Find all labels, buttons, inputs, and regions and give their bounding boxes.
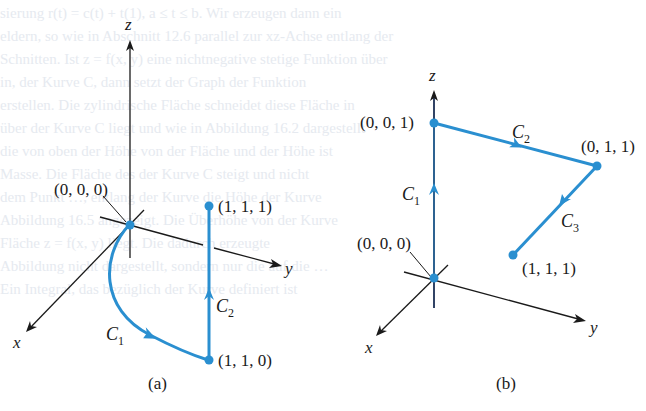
- point-1-1-1-label: (1, 1, 1): [522, 259, 576, 278]
- panel-b-caption: (b): [496, 374, 516, 393]
- point-1-1-1: [205, 202, 214, 211]
- origin-label: (0, 0, 0): [357, 234, 411, 253]
- x-axis-label: x: [12, 333, 21, 352]
- point-1-1-0: [205, 356, 214, 365]
- c1-label: C1: [106, 324, 124, 348]
- z-axis-label: z: [428, 66, 436, 85]
- c1-label: C1: [402, 184, 420, 208]
- y-axis: [100, 217, 203, 245]
- curve-c1: [110, 224, 208, 360]
- panel-a-caption: (a): [148, 374, 167, 393]
- curve-c3: [513, 166, 597, 255]
- panel-b: z y x (0, 0, 0) C1 C2 C3 (0, 0, 1) (0, 1…: [357, 66, 635, 393]
- origin-label: (0, 0, 0): [54, 180, 108, 199]
- point-0-0-1-label: (0, 0, 1): [360, 113, 414, 132]
- origin-leader-line: [410, 252, 431, 277]
- c3-label: C3: [561, 211, 579, 235]
- c2-label: C2: [216, 296, 234, 320]
- panel-a: z y x (0, 0, 0) C1 C2 (1, 1, 1) (1, 1, 0…: [12, 15, 293, 393]
- point-1-1-1-label: (1, 1, 1): [218, 197, 272, 216]
- point-1-1-1: [509, 251, 518, 260]
- point-1-1-0-label: (1, 1, 0): [218, 351, 272, 370]
- point-0-1-1: [593, 162, 602, 171]
- y-axis-continued: [214, 248, 278, 265]
- y-axis-label: y: [588, 318, 598, 337]
- x-axis-label: x: [364, 338, 373, 357]
- point-origin: [430, 274, 439, 283]
- point-origin: [126, 221, 135, 230]
- y-axis-label: y: [283, 259, 293, 278]
- point-0-1-1-label: (0, 1, 1): [581, 137, 635, 156]
- point-0-0-1: [430, 119, 439, 128]
- z-axis-label: z: [124, 15, 132, 34]
- figure-canvas: z y x (0, 0, 0) C1 C2 (1, 1, 1) (1, 1, 0…: [0, 0, 646, 411]
